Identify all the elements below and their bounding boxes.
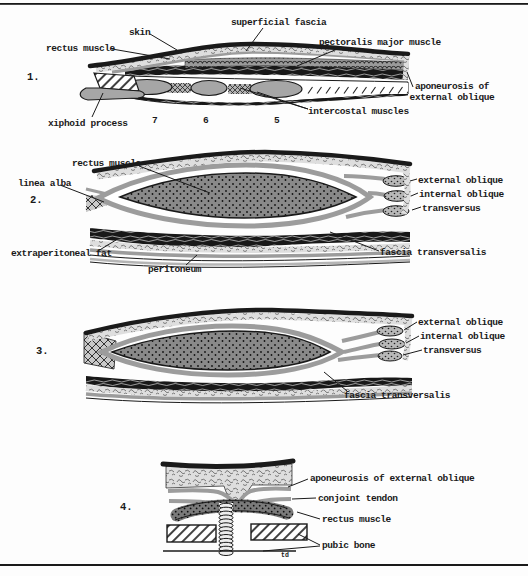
label-section-4-number: 4. <box>120 502 133 513</box>
label-pectoralis-major: pectoralis major muscle <box>319 37 441 48</box>
label-extraperitoneal-fat: extraperitoneal fat <box>11 248 112 259</box>
top-rule <box>0 3 528 5</box>
pubic-bone-left <box>167 525 216 542</box>
label-pubic-bone: pubic bone <box>322 540 375 551</box>
label-cartilage-6: 6 <box>203 115 208 126</box>
label-aponeurosis-external-oblique-1: aponeurosis of external oblique <box>404 81 500 103</box>
aponeurosis-top-arc <box>163 461 293 466</box>
label-conjoint-tendon: conjoint tendon <box>318 493 398 504</box>
label-internal-oblique-3: internal oblique <box>420 331 505 342</box>
tendon-column-ribs <box>219 503 233 555</box>
label-cartilage-7: 7 <box>152 115 157 126</box>
label-rectus-muscle-1: rectus muscle <box>46 43 115 54</box>
section-3-drawing <box>84 310 412 403</box>
internal-oblique-tip <box>379 339 405 349</box>
label-aponeurosis-external-oblique-4: aponeurosis of external oblique <box>310 473 474 484</box>
label-intercostal-muscles: intercostal muscles <box>308 106 409 117</box>
label-section-2-number: 2. <box>30 195 43 206</box>
label-external-oblique-2: external oblique <box>418 175 503 186</box>
costal-cartilage-5 <box>250 81 302 98</box>
external-oblique-tip <box>377 326 403 336</box>
label-footnote-mark: td <box>281 552 289 559</box>
transversus-tip <box>378 351 402 361</box>
costal-cartilage-6 <box>191 81 227 96</box>
label-fascia-transversalis-2: fascia transversalis <box>380 247 486 258</box>
label-linea-alba: linea alba <box>18 178 71 189</box>
intercostal-patch-2 <box>228 84 252 94</box>
anatomy-figure-page: superficial fascia skin rectus muscle pe… <box>0 0 528 576</box>
bottom-rule <box>0 564 528 566</box>
label-skin: skin <box>129 27 150 38</box>
label-transversus-3: transversus <box>423 345 481 356</box>
label-rectus-muscle-4: rectus muscle <box>322 514 391 525</box>
label-cartilage-5: 5 <box>274 115 279 126</box>
section-2-drawing <box>86 152 410 267</box>
label-rectus-muscle-2: rectus muscle <box>72 158 141 169</box>
label-xiphoid-process: xiphoid process <box>48 118 128 129</box>
label-transversus-2: transversus <box>422 203 480 214</box>
pubic-bone-right <box>251 524 307 540</box>
label-peritoneum: peritoneum <box>148 264 201 275</box>
section-1-drawing <box>80 44 408 105</box>
label-section-1-number: 1. <box>27 72 40 83</box>
label-internal-oblique-2: internal oblique <box>419 189 504 200</box>
label-external-oblique-3: external oblique <box>418 317 503 328</box>
label-fascia-transversalis-3: fascia transversalis <box>344 390 450 401</box>
aponeurosis-slash-band <box>305 83 408 94</box>
label-section-3-number: 3. <box>36 346 49 357</box>
section-4-drawing <box>163 461 307 556</box>
right-cut-edge <box>405 56 407 80</box>
label-superficial-fascia: superficial fascia <box>231 17 326 28</box>
